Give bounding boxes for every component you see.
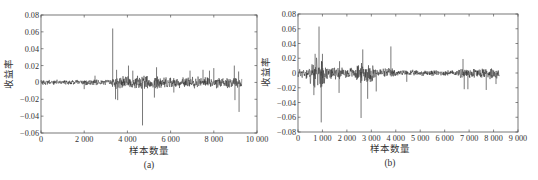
x-tick-label: 0 (296, 134, 300, 143)
y-axis-title-b: 收益率 (260, 57, 271, 87)
x-axis-a: 02 0004 0006 0008 00010 000 (39, 15, 268, 144)
x-tick-label: 0 (39, 135, 43, 144)
x-tick-label: 6 000 (435, 134, 453, 143)
plot-frame-a (41, 15, 257, 133)
x-axis-b: 01 0002 0003 0004 0005 0006 0007 0008 00… (296, 14, 527, 143)
chart-panel-a: 0.080.060.040.020−0.02−0.04−0.06 02 0004… (3, 11, 268, 171)
y-tick-label: 0.08 (282, 10, 296, 19)
y-tick-label: 0.04 (25, 45, 39, 54)
y-tick-label: 0 (292, 69, 296, 78)
y-tick-label: 0.02 (282, 54, 296, 63)
y-tick-label: −0.02 (20, 95, 39, 104)
y-tick-label: 0.02 (25, 62, 39, 71)
chart-panel-b: 0.080.060.040.020−0.02−0.04−0.06−0.08 01… (260, 10, 527, 169)
y-tick-label: −0.04 (20, 112, 39, 121)
returns-line (41, 76, 242, 89)
x-tick-label: 5 000 (411, 134, 429, 143)
x-tick-label: 2 000 (75, 135, 93, 144)
figure: 0.080.060.040.020−0.02−0.04−0.06 02 0004… (0, 0, 538, 180)
x-tick-label: 9 000 (509, 134, 527, 143)
y-tick-label: 0.04 (282, 40, 296, 49)
x-tick-label: 4 000 (387, 134, 405, 143)
x-tick-label: 3 000 (362, 134, 380, 143)
x-tick-label: 10 000 (246, 135, 269, 144)
x-axis-title-a: 样本数量 (129, 145, 169, 156)
y-tick-label: 0.06 (25, 28, 39, 37)
caption-a: (a) (144, 160, 155, 171)
x-tick-label: 8 000 (205, 135, 223, 144)
x-tick-label: 6 000 (161, 135, 179, 144)
x-tick-label: 4 000 (118, 135, 136, 144)
y-axis-a: 0.080.060.040.020−0.02−0.04−0.06 (20, 11, 257, 138)
series-line-a (41, 28, 242, 125)
returns-line (298, 58, 500, 88)
y-tick-label: 0 (35, 78, 39, 87)
series-line-b (298, 27, 500, 123)
y-tick-label: −0.06 (277, 113, 296, 122)
x-tick-label: 2 000 (338, 134, 356, 143)
y-tick-label: −0.04 (277, 99, 296, 108)
x-tick-label: 1 000 (313, 134, 331, 143)
y-tick-label: 0.06 (282, 25, 296, 34)
y-tick-label: −0.08 (277, 128, 296, 137)
x-axis-title-b: 样本数量 (370, 143, 410, 154)
y-tick-label: −0.06 (20, 129, 39, 138)
y-tick-label: −0.02 (277, 84, 296, 93)
x-tick-label: 7 000 (460, 134, 478, 143)
x-tick-label: 8 000 (484, 134, 502, 143)
y-tick-label: 0.08 (25, 11, 39, 20)
caption-b: (b) (384, 158, 395, 169)
y-axis-title-a: 收益率 (3, 59, 14, 89)
